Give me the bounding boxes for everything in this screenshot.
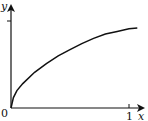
x-axis-label: x <box>138 110 145 121</box>
origin-label: 0 <box>1 107 8 120</box>
chart: 1 y x 0 <box>0 0 148 121</box>
x-tick-label-0: 1 <box>126 110 133 121</box>
y-axis-label: y <box>0 0 8 13</box>
curve-line <box>11 28 137 108</box>
